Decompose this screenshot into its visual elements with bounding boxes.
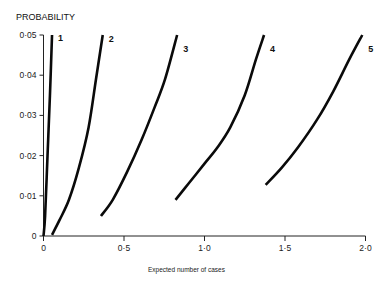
series-group	[44, 35, 363, 236]
x-tick-label: 1·5	[279, 243, 292, 253]
y-tick-label: 0·04	[19, 70, 36, 80]
curve-5	[266, 35, 363, 185]
curve-label-4: 4	[270, 44, 275, 54]
curve-label-3: 3	[183, 44, 188, 54]
x-tick-label: 2·0	[359, 243, 372, 253]
y-tick-label: 0	[32, 231, 37, 241]
axes: 00·010·020·030·040·0500·51·01·52·0	[19, 30, 371, 253]
series-labels: 12345	[58, 33, 373, 54]
y-tick-label: 0·03	[19, 110, 36, 120]
y-tick-label: 0·02	[19, 151, 36, 161]
y-tick-label: 0·05	[19, 30, 36, 40]
x-tick-label: 0	[41, 243, 46, 253]
curve-label-5: 5	[368, 44, 373, 54]
curve-3	[101, 35, 177, 216]
y-tick-label: 0·01	[19, 191, 36, 201]
x-tick-label: 1·0	[198, 243, 211, 253]
chart: PROBABILITY 00·010·020·030·040·0500·51·0…	[0, 0, 386, 286]
curve-1	[44, 35, 53, 236]
y-axis-title: PROBABILITY	[16, 12, 75, 22]
curve-4	[176, 35, 265, 200]
curve-2	[52, 35, 103, 235]
curve-label-1: 1	[58, 33, 63, 43]
x-tick-label: 0·5	[118, 243, 131, 253]
curve-label-2: 2	[109, 34, 114, 44]
x-axis-title: Expected number of cases	[148, 266, 226, 274]
